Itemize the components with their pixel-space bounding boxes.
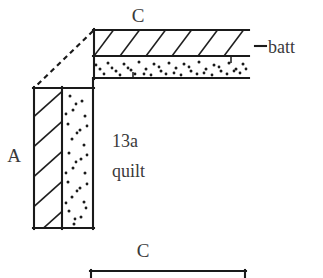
label-figure-name: quilt: [112, 161, 145, 181]
stipple-dots-horizontal: [95, 61, 248, 77]
vertical-leg-group: [28, 79, 94, 272]
label-figure-number: 13a: [112, 131, 138, 151]
stipple-dots-vertical: [65, 95, 89, 226]
quilt-corner-diagram: C batt A 13a quilt C: [0, 0, 323, 278]
label-batt: batt: [268, 37, 295, 57]
horizontal-arm-hatch-band: [88, 24, 274, 64]
diagram-canvas: C batt A 13a quilt C: [0, 0, 323, 278]
label-top-c: C: [132, 5, 145, 26]
bottom-figure-group: [90, 270, 246, 278]
horizontal-arm-batt-band: [93, 57, 249, 78]
miter-fold-dashed-line: [34, 31, 93, 88]
horizontal-arm-group: [88, 24, 274, 79]
label-side-a: A: [7, 145, 21, 166]
vertical-leg-hatch-column: [28, 86, 68, 272]
label-bottom-c: C: [137, 240, 150, 261]
vertical-leg-batt-column: [65, 79, 93, 229]
